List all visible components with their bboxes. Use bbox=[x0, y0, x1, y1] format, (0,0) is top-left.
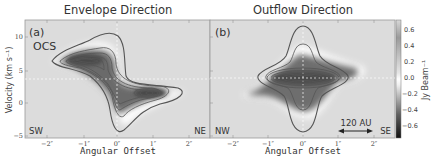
x-axis-a: −2″ −1″ 0″ 1″ 2″ Angular Offset bbox=[41, 140, 193, 156]
molecule-label: OCS bbox=[33, 40, 56, 53]
panel-b-title: Outflow Direction bbox=[253, 3, 353, 17]
y-axis-label: Velocity (km s⁻¹) bbox=[5, 47, 14, 114]
colorbar-tick: −0.4 bbox=[402, 106, 418, 114]
colorbar-tick: 0.0 bbox=[404, 74, 414, 82]
y-tick: 0 bbox=[19, 99, 23, 107]
panel-b-label: (b) bbox=[215, 26, 231, 39]
colorbar-tick: 0.6 bbox=[404, 26, 414, 34]
panel-a-title: Envelope Direction bbox=[64, 3, 173, 17]
y-tick: 10 bbox=[15, 33, 23, 41]
y-axis: 10 5 0 −5 Velocity (km s⁻¹) bbox=[5, 33, 23, 140]
panel-b-left-direction: NW bbox=[215, 126, 230, 136]
colorbar: 0.6 0.4 0.2 0.0 −0.2 −0.4 −0.6 Jy Beam⁻¹ bbox=[396, 20, 430, 138]
x-tick: 2″ bbox=[371, 140, 378, 148]
x-tick: −2″ bbox=[41, 140, 54, 148]
panel-b: (b) NW SE 120 AU bbox=[210, 20, 395, 138]
colorbar-gradient bbox=[396, 20, 401, 138]
panel-b-right-direction: SE bbox=[380, 126, 391, 136]
colorbar-tick: 0.2 bbox=[404, 58, 414, 66]
pv-diagram-figure: Envelope Direction Outflow Direction bbox=[0, 0, 435, 163]
colorbar-tick: −0.6 bbox=[402, 122, 418, 130]
panel-a-right-direction: NE bbox=[194, 126, 206, 136]
x-tick: 2″ bbox=[186, 140, 193, 148]
colorbar-label: Jy Beam⁻¹ bbox=[421, 60, 430, 101]
panel-a: (a) OCS SW NE bbox=[25, 20, 210, 138]
x-axis-label-b: Angular Offset bbox=[265, 146, 341, 156]
y-tick: 5 bbox=[19, 67, 23, 75]
y-tick: −5 bbox=[13, 132, 23, 140]
colorbar-tick: 0.4 bbox=[404, 42, 414, 50]
x-axis-label-a: Angular Offset bbox=[80, 146, 156, 156]
x-axis-b: −2″ −1″ 0″ 1″ 2″ Angular Offset bbox=[227, 140, 378, 156]
x-tick: −2″ bbox=[227, 140, 240, 148]
panel-a-left-direction: SW bbox=[29, 126, 43, 136]
panel-a-label: (a) bbox=[29, 26, 44, 39]
scale-bar-label: 120 AU bbox=[341, 118, 372, 128]
scale-bar: 120 AU bbox=[338, 118, 373, 134]
colorbar-tick: −0.2 bbox=[402, 90, 418, 98]
